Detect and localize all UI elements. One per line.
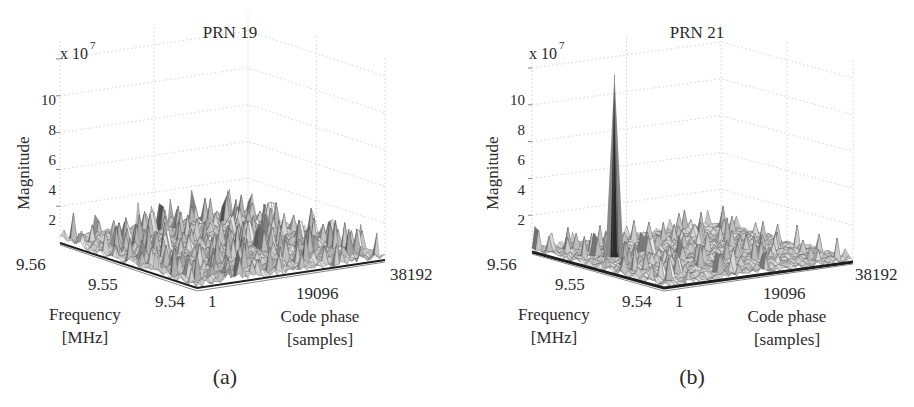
panel-a: PRN 19 x 107 10 8 6 4 2 Magnitude 9.56 9… (0, 0, 457, 407)
code-tick: 38192 (855, 266, 898, 283)
code-tick: 1 (675, 293, 684, 310)
exponent-base: x 10 (60, 45, 88, 62)
plot-title: PRN 19 (190, 24, 270, 41)
z-tick: 2 (32, 213, 56, 228)
code-tick: 19096 (296, 285, 339, 302)
z-tick: 10 (501, 93, 525, 108)
z-tick: 4 (501, 183, 525, 198)
plot-title: PRN 21 (657, 24, 737, 41)
freq-label-line1: Frequency (509, 306, 599, 323)
code-axis-label: Code phase [samples] (737, 308, 837, 348)
z-axis-label: Magnitude (484, 136, 501, 210)
surface-mesh (60, 189, 385, 287)
exponent-base: x 10 (529, 45, 557, 62)
exponent-power: 7 (559, 39, 565, 51)
z-tick: 4 (32, 183, 56, 198)
correlation-peak (605, 75, 623, 257)
z-tick: 8 (501, 123, 525, 138)
panel-b: PRN 21 x 107 10 8 6 4 2 Magnitude 9.56 9… (457, 0, 914, 407)
code-label-line2: [samples] (270, 331, 370, 348)
freq-tick: 9.56 (16, 256, 46, 273)
code-tick: 1 (208, 293, 217, 310)
freq-tick: 9.55 (555, 276, 585, 293)
z-axis-exponent: x 107 (60, 44, 96, 62)
freq-tick: 9.54 (155, 293, 185, 310)
z-tick: 8 (32, 123, 56, 138)
code-axis-label: Code phase [samples] (270, 308, 370, 348)
freq-axis-label: Frequency [MHz] (40, 306, 130, 346)
code-label-line1: Code phase (737, 308, 837, 325)
freq-tick: 9.54 (622, 293, 652, 310)
code-label-line1: Code phase (270, 308, 370, 325)
freq-label-line2: [MHz] (509, 329, 599, 346)
z-tick: 10 (32, 93, 56, 108)
exponent-power: 7 (90, 39, 96, 51)
z-tick: 6 (501, 153, 525, 168)
freq-tick: 9.55 (88, 276, 118, 293)
freq-label-line1: Frequency (40, 306, 130, 323)
freq-tick: 9.56 (487, 256, 517, 273)
z-axis-label: Magnitude (15, 136, 32, 210)
code-tick: 38192 (390, 266, 433, 283)
code-tick: 19096 (763, 285, 806, 302)
panel-caption: (a) (200, 366, 250, 388)
code-label-line2: [samples] (737, 331, 837, 348)
z-axis-exponent: x 107 (529, 44, 565, 62)
panel-caption: (b) (667, 366, 717, 388)
z-tick: 2 (501, 213, 525, 228)
z-tick: 6 (32, 153, 56, 168)
freq-label-line2: [MHz] (40, 329, 130, 346)
freq-axis-label: Frequency [MHz] (509, 306, 599, 346)
